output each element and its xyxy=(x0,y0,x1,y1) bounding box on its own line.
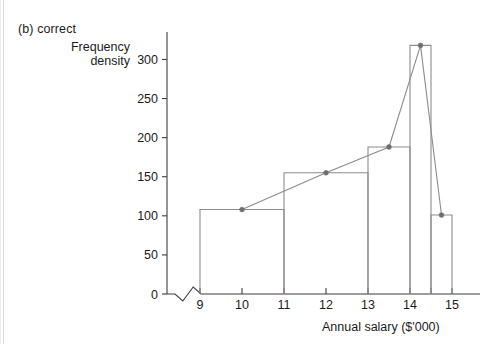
frequency-polygon-point xyxy=(240,207,245,212)
x-axis-tick-label: 9 xyxy=(197,298,204,312)
y-axis-tick-label: 50 xyxy=(144,248,158,262)
frequency-polygon-point xyxy=(418,43,423,48)
x-axis-tick-label: 12 xyxy=(319,298,333,312)
x-axis-tick-label: 15 xyxy=(445,298,459,312)
frequency-polygon-point xyxy=(324,170,329,175)
y-axis-tick-label: 250 xyxy=(137,92,158,106)
x-axis-tick-label: 14 xyxy=(403,298,417,312)
histogram-bar xyxy=(200,210,284,294)
y-axis-tick-label: 150 xyxy=(137,170,158,184)
histogram-bar xyxy=(284,173,368,294)
x-axis-tick-label: 11 xyxy=(278,298,291,312)
histogram-bar xyxy=(368,147,410,294)
frequency-polygon-point xyxy=(439,213,444,218)
y-axis-tick-label: 300 xyxy=(137,53,158,67)
x-axis-tick-label: 10 xyxy=(235,298,249,312)
y-axis-tick-label: 200 xyxy=(137,131,158,145)
frequency-polygon-point xyxy=(387,145,392,150)
histogram-bar xyxy=(431,215,452,294)
frequency-polygon-line xyxy=(242,45,442,215)
x-axis-tick-label: 13 xyxy=(361,298,375,312)
histogram-plot: 0501001502002503009101112131415 xyxy=(0,0,497,344)
y-axis-tick-label: 100 xyxy=(137,209,158,223)
figure-page: (b) correct Frequency density Annual sal… xyxy=(0,0,497,344)
histogram-bar xyxy=(410,45,431,294)
y-axis-tick-label: 0 xyxy=(151,288,158,302)
